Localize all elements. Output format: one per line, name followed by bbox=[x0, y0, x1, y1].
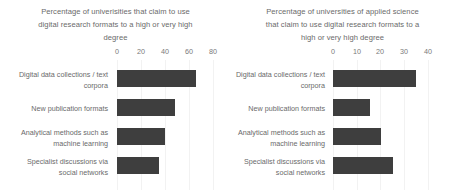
bar-row: Analytical methods such as machine learn… bbox=[227, 127, 454, 156]
bar-row: Analytical methods such as machine learn… bbox=[0, 127, 227, 156]
figure-container: Percentage of univerisities that claim t… bbox=[0, 0, 454, 190]
x-tick-right-3: 30 bbox=[400, 44, 408, 60]
category-label: Digital data collections / text corpora bbox=[0, 70, 108, 91]
bar-row: Specialist discussions via social networ… bbox=[0, 156, 227, 185]
chart-title-right-line-3: high or very high degree bbox=[241, 31, 444, 44]
chart-title-right-line-1: Percentage of universities of applied sc… bbox=[241, 5, 444, 18]
x-tick-right-2: 20 bbox=[376, 44, 384, 60]
x-tick-right-1: 10 bbox=[353, 44, 361, 60]
bar-right-specialist-discussions bbox=[333, 157, 393, 174]
category-label: Specialist discussions via social networ… bbox=[227, 157, 325, 178]
category-label: Analytical methods such as machine learn… bbox=[0, 128, 108, 149]
bar-row: New publication formats bbox=[0, 98, 227, 127]
chart-title-left-line-2: digital research formats to a high or ve… bbox=[14, 18, 217, 31]
x-tick-left-4: 80 bbox=[209, 44, 217, 60]
chart-panel-applied-science: Percentage of universities of applied sc… bbox=[227, 0, 454, 190]
bar-left-analytical-methods bbox=[117, 128, 165, 145]
chart-title-left-line-3: degree bbox=[14, 31, 217, 44]
chart-panel-universities: Percentage of univerisities that claim t… bbox=[0, 0, 227, 190]
x-tick-left-3: 60 bbox=[185, 44, 193, 60]
x-axis-left: 0 20 40 60 80 bbox=[0, 44, 227, 60]
bar-right-digital-data-collections bbox=[333, 70, 416, 87]
chart-title-right-line-2: that claim to use digital research forma… bbox=[241, 18, 444, 31]
bar-right-new-publication-formats bbox=[333, 99, 370, 116]
x-axis-right: 0 10 20 30 40 bbox=[227, 44, 454, 60]
x-tick-right-4: 40 bbox=[424, 44, 432, 60]
bar-row: Digital data collections / text corpora bbox=[0, 69, 227, 98]
chart-title-left-line-1: Percentage of univerisities that claim t… bbox=[14, 5, 217, 18]
x-tick-left-1: 20 bbox=[137, 44, 145, 60]
bar-row: Specialist discussions via social networ… bbox=[227, 156, 454, 185]
bar-left-specialist-discussions bbox=[117, 157, 159, 174]
x-tick-right-0: 0 bbox=[331, 44, 335, 60]
category-label: New publication formats bbox=[227, 104, 325, 115]
plot-area-left: 0 20 40 60 80 Digital data collections /… bbox=[0, 44, 227, 190]
bar-left-new-publication-formats bbox=[117, 99, 175, 116]
category-label: Digital data collections / text corpora bbox=[227, 70, 325, 91]
category-label: Specialist discussions via social networ… bbox=[0, 157, 108, 178]
bar-row: New publication formats bbox=[227, 98, 454, 127]
x-tick-left-2: 40 bbox=[161, 44, 169, 60]
bar-left-digital-data-collections bbox=[117, 70, 196, 87]
bar-right-analytical-methods bbox=[333, 128, 381, 145]
bar-row: Digital data collections / text corpora bbox=[227, 69, 454, 98]
category-label: Analytical methods such as machine learn… bbox=[227, 128, 325, 149]
chart-title-left: Percentage of univerisities that claim t… bbox=[14, 5, 217, 44]
category-label: New publication formats bbox=[0, 104, 108, 115]
x-tick-left-0: 0 bbox=[115, 44, 119, 60]
chart-title-right: Percentage of universities of applied sc… bbox=[241, 5, 444, 44]
plot-area-right: 0 10 20 30 40 Digital data collections /… bbox=[227, 44, 454, 190]
